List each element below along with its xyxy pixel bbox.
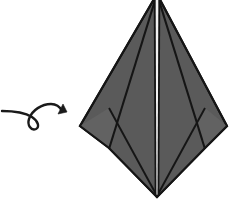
center-crease-right-line bbox=[158, 0, 159, 196]
bottom-point-vertex bbox=[155, 194, 158, 197]
origami-figure-panel: Shaded paper model shaped like a narrow … bbox=[0, 0, 233, 213]
turn-over-arrow-group bbox=[2, 104, 67, 129]
origami-diagram-canvas bbox=[0, 0, 233, 213]
turn-over-arrow-path bbox=[2, 104, 62, 129]
center-crease-left-line bbox=[155, 0, 156, 196]
paper-model-group bbox=[80, 0, 227, 198]
